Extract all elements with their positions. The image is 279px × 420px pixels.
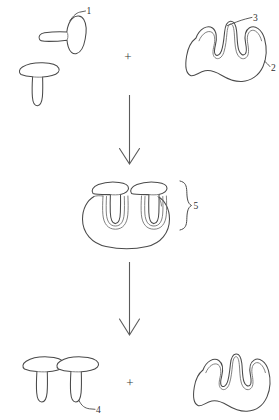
figure-canvas: 1 3 2 + [0,0,279,420]
ligand-dimer [23,357,99,402]
receptor-blob-top [186,21,266,81]
brace-bracket [180,181,192,230]
plus-sign-top: + [124,49,131,64]
reference-label-1: 1 [87,6,92,16]
reference-label-2: 2 [271,63,276,73]
receptor-blob-bottom [194,354,270,411]
bound-complex [83,182,170,249]
leader-label-2 [264,61,270,67]
ligand-monomer-upright [19,63,59,106]
ligand-monomer-tilted [39,16,86,54]
patent-figure: 1 3 2 + [0,0,279,420]
reference-label-4: 4 [96,405,101,415]
reaction-arrow-first [120,95,140,164]
reaction-arrow-second [120,262,140,335]
reference-label-5: 5 [194,201,199,211]
leader-label-4 [79,401,95,410]
plus-sign-bottom: + [126,375,133,390]
reference-label-3: 3 [253,13,258,23]
